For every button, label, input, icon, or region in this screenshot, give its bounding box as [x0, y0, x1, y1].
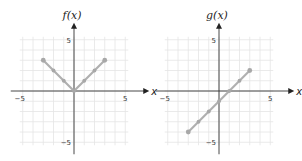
charts-canvas: f(x) x −5 5 5 −5 g(x) x −5 5 5 −5 [0, 0, 302, 161]
xtick-neg5-f: −5 [15, 95, 25, 103]
data-point [72, 89, 76, 93]
chart-title-f: f(x) [62, 9, 82, 22]
x-label-g: x [295, 86, 302, 97]
ytick-pos5-g: 5 [212, 37, 216, 45]
ytick-neg5-f: −5 [61, 139, 71, 147]
xtick-pos5-f: 5 [123, 95, 127, 103]
data-point [247, 68, 252, 73]
data-point [52, 69, 56, 73]
data-point [41, 58, 46, 63]
chart-f: f(x) x −5 5 5 −5 [11, 9, 158, 154]
data-point [102, 58, 107, 63]
y-axis-arrow-icon [71, 23, 77, 29]
data-point [207, 110, 211, 114]
xtick-pos5-g: 5 [268, 95, 272, 103]
ytick-neg5-g: −5 [206, 139, 216, 147]
data-point [238, 79, 242, 83]
x-axis-arrow-icon [143, 88, 149, 94]
data-point [82, 79, 86, 83]
x-axis-arrow-icon [288, 88, 294, 94]
ytick-pos5-f: 5 [67, 37, 71, 45]
data-point [62, 79, 66, 83]
chart-title-g: g(x) [206, 9, 228, 22]
data-point [217, 99, 221, 103]
data-point [227, 89, 231, 93]
data-point [197, 120, 201, 124]
y-axis-arrow-icon [216, 23, 222, 29]
data-point [93, 69, 97, 73]
chart-g: g(x) x −5 5 5 −5 [156, 9, 302, 154]
data-point [186, 130, 191, 135]
xtick-neg5-g: −5 [160, 95, 170, 103]
